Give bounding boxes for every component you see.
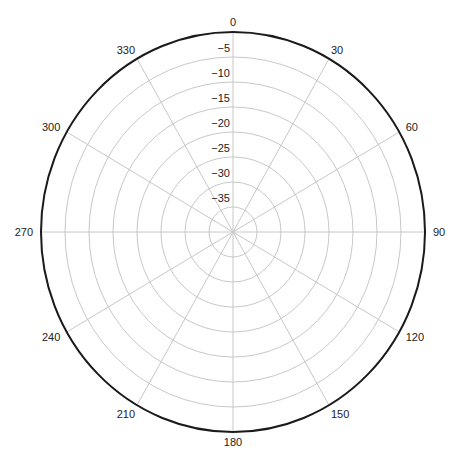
angle-label-300: 300 [42, 121, 60, 133]
polar-chart: 0306090120150180210240270300330 −5−10−15… [0, 0, 460, 462]
radius-label-2: −10 [211, 67, 230, 79]
radius-label-6: −30 [211, 167, 230, 179]
angle-label-30: 30 [331, 44, 343, 56]
angle-label-330: 330 [117, 44, 135, 56]
angular-gridlines [41, 32, 425, 432]
angle-label-210: 210 [117, 408, 135, 420]
radius-label-1: −5 [217, 42, 230, 54]
radial-tick-labels: −5−10−15−20−25−30−35 [211, 42, 230, 204]
angle-label-90: 90 [433, 226, 445, 238]
radius-label-3: −15 [211, 92, 230, 104]
radius-label-4: −20 [211, 117, 230, 129]
angle-label-0: 0 [230, 16, 236, 28]
angle-label-60: 60 [406, 121, 418, 133]
angle-label-120: 120 [406, 331, 424, 343]
radius-label-7: −35 [211, 192, 230, 204]
radius-label-5: −25 [211, 142, 230, 154]
angle-label-240: 240 [42, 331, 60, 343]
angle-label-180: 180 [224, 436, 242, 448]
angle-label-150: 150 [331, 408, 349, 420]
angle-label-270: 270 [15, 226, 33, 238]
